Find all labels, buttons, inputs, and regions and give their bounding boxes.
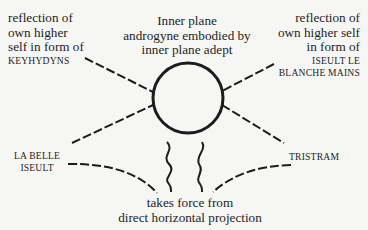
label-iseult-blanche-mains: reflection of own higher self in form of… <box>278 11 360 79</box>
label-center-node: Inner plane androgyne embodied by inner … <box>120 14 254 58</box>
connector-top-left <box>85 58 153 92</box>
label-name: TRISTRAM <box>289 151 339 163</box>
label-text: direct horizontal projection <box>100 211 280 226</box>
wavy-line-left <box>166 142 171 192</box>
connector-bottom-left <box>72 105 153 143</box>
label-name: BLANCHE MAINS <box>278 67 360 79</box>
curve-right <box>213 165 291 192</box>
label-tristram: TRISTRAM <box>289 151 339 163</box>
label-text: androgyne embodied by <box>120 29 254 44</box>
curve-left <box>68 164 157 193</box>
label-text: inner plane adept <box>120 43 254 58</box>
connector-top-right <box>222 64 274 91</box>
label-text: reflection of <box>278 11 360 26</box>
label-text: takes force from <box>100 196 280 211</box>
label-text: Inner plane <box>120 14 254 29</box>
label-text: reflection of <box>8 11 84 26</box>
label-text: own higher <box>8 26 84 41</box>
label-keyhydyns: reflection of own higher self in form of… <box>8 11 84 67</box>
wavy-line-right <box>198 142 203 192</box>
label-horizontal-projection: takes force from direct horizontal proje… <box>100 196 280 225</box>
label-text: in form of <box>278 40 360 55</box>
label-name: ISEULT <box>14 162 60 174</box>
center-circle <box>153 63 223 133</box>
label-name: LA BELLE <box>14 150 60 162</box>
label-text: self in form of <box>8 40 84 55</box>
label-text: own higher self <box>278 26 360 41</box>
label-name: KEYHYDYNS <box>8 55 84 67</box>
label-la-belle-iseult: LA BELLE ISEULT <box>14 150 60 174</box>
connector-bottom-right <box>222 105 284 143</box>
label-name: ISEULT LE <box>278 55 360 67</box>
